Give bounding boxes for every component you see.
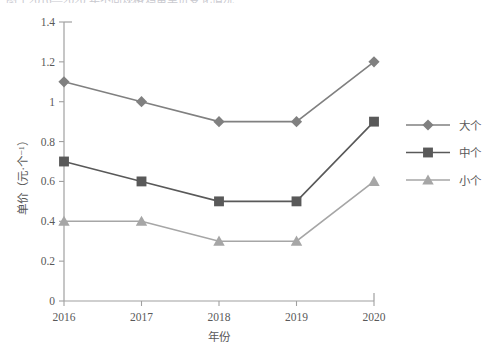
x-axis-tick-label: 2019 [285,311,308,323]
legend-item-diamond[interactable]: 大个 [406,119,482,132]
legend-item-square[interactable]: 中个 [406,147,482,159]
y-axis-tick-label: 1 [49,96,55,108]
y-axis-tick-label: 1.4 [41,16,56,28]
chart-legend: 大个中个小个 [406,119,482,187]
x-axis-tick-label: 2020 [363,311,386,323]
data-point-marker [136,96,147,107]
x-axis-title: 年份 [208,330,231,343]
line-chart: 00.20.40.60.811.21.4 2016201720182019202… [0,0,490,354]
data-point-marker [59,157,69,167]
y-axis-tick-label: 0.8 [41,136,56,148]
x-axis-tick-labels: 20162017201820192020 [53,311,386,323]
y-axis-tick-label: 0.4 [41,215,56,227]
chart-figure: 图 1 2016—2020 年不同规格鸡蛋单价变化情况 00.20.40.60.… [0,0,490,354]
data-point-marker [369,117,379,127]
series-line [64,62,374,122]
chart-series-square [59,117,379,207]
data-point-marker [58,76,69,87]
legend-label: 中个 [459,147,482,159]
data-point-marker [137,177,147,187]
legend-label: 小个 [459,175,482,187]
chart-axes [59,22,374,306]
y-axis-tick-label: 1.2 [41,56,56,68]
y-axis-tick-labels: 00.20.40.60.811.21.4 [41,16,56,307]
y-axis-tick-label: 0.6 [41,175,56,187]
legend-marker [423,148,433,158]
series-line [64,122,374,202]
y-axis-title: 单价（元·个⁻¹） [17,135,29,214]
legend-marker [422,119,433,130]
x-axis-tick-label: 2016 [53,311,76,323]
data-point-marker [213,116,224,127]
chart-series-triangle [58,176,379,246]
legend-item-triangle[interactable]: 小个 [406,174,482,186]
x-axis-tick-label: 2017 [130,311,153,323]
data-point-marker [368,176,379,186]
chart-series-layer [58,56,379,245]
data-point-marker [292,196,302,206]
data-point-marker [214,196,224,206]
y-axis-tick-label: 0 [49,295,55,307]
legend-label: 大个 [459,119,482,132]
y-axis-tick-label: 0.2 [41,255,56,267]
x-axis-tick-label: 2018 [208,311,231,323]
series-line [64,181,374,241]
chart-series-diamond [58,56,379,127]
